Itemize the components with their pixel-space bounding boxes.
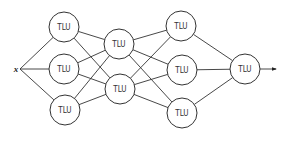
edge-b2-c2 xyxy=(134,74,167,84)
tlu-node-a1: TLU xyxy=(49,12,79,42)
tlu-node-b2: TLU xyxy=(105,74,135,104)
node-label: TLU xyxy=(174,109,188,118)
input-x-label: x xyxy=(13,64,19,74)
neural-network-diagram: TLUTLUTLUTLUTLUTLUTLUTLUTLU x xyxy=(0,0,289,146)
node-label: TLU xyxy=(57,106,71,115)
edge-c3-d1 xyxy=(194,78,232,105)
node-label: TLU xyxy=(173,22,187,31)
edge-c1-d1 xyxy=(193,34,232,60)
edge-a2-b2 xyxy=(78,74,106,84)
node-label: TLU xyxy=(112,85,126,94)
node-label: TLU xyxy=(111,40,125,49)
edge-b1-c1 xyxy=(133,30,166,40)
edge-input-a1 xyxy=(20,37,53,69)
tlu-node-c3: TLU xyxy=(167,98,197,128)
tlu-node-d1: TLU xyxy=(230,54,260,84)
tlu-node-b1: TLU xyxy=(104,29,134,59)
tlu-node-c2: TLU xyxy=(167,55,197,85)
node-label: TLU xyxy=(237,65,251,74)
tlu-node-a3: TLU xyxy=(50,95,80,125)
edge-a1-b1 xyxy=(78,31,104,39)
edge-input-a3 xyxy=(20,69,54,100)
edge-a3-b2 xyxy=(79,94,106,104)
node-label: TLU xyxy=(174,66,188,75)
edge-b2-c1 xyxy=(130,37,170,78)
edge-c2-d1 xyxy=(197,69,230,70)
tlu-node-a2: TLU xyxy=(49,54,79,84)
node-label: TLU xyxy=(56,65,70,74)
node-label: TLU xyxy=(56,23,70,32)
edge-a2-b1 xyxy=(78,50,106,63)
edge-b2-c3 xyxy=(134,94,168,107)
tlu-node-c1: TLU xyxy=(166,11,196,41)
